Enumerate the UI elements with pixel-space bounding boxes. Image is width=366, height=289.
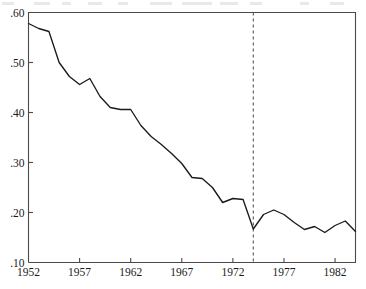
data-series-line — [29, 24, 356, 233]
x-axis-ticks — [80, 258, 335, 263]
y-axis-ticks — [29, 63, 34, 213]
y-tick-label: .60 — [10, 7, 25, 19]
line-chart: .10.20.30.40.50.60 195219571962196719721… — [0, 0, 366, 289]
y-tick-label: .40 — [10, 107, 25, 119]
y-tick-label: .50 — [10, 57, 25, 69]
x-tick-label: 1952 — [17, 266, 40, 278]
x-tick-label: 1967 — [170, 266, 193, 278]
axis-frame — [29, 13, 356, 263]
x-tick-label: 1982 — [324, 266, 347, 278]
y-tick-label: .20 — [10, 207, 25, 219]
x-tick-label: 1962 — [119, 266, 142, 278]
x-axis-tick-labels: 1952195719621967197219771982 — [17, 266, 347, 278]
y-axis-tick-labels: .10.20.30.40.50.60 — [10, 7, 25, 269]
x-tick-label: 1957 — [68, 266, 91, 278]
x-tick-label: 1977 — [272, 266, 295, 278]
y-tick-label: .30 — [10, 157, 25, 169]
plot-frame — [29, 13, 356, 263]
x-tick-label: 1972 — [221, 266, 244, 278]
chart-figure: .10.20.30.40.50.60 195219571962196719721… — [0, 0, 366, 289]
